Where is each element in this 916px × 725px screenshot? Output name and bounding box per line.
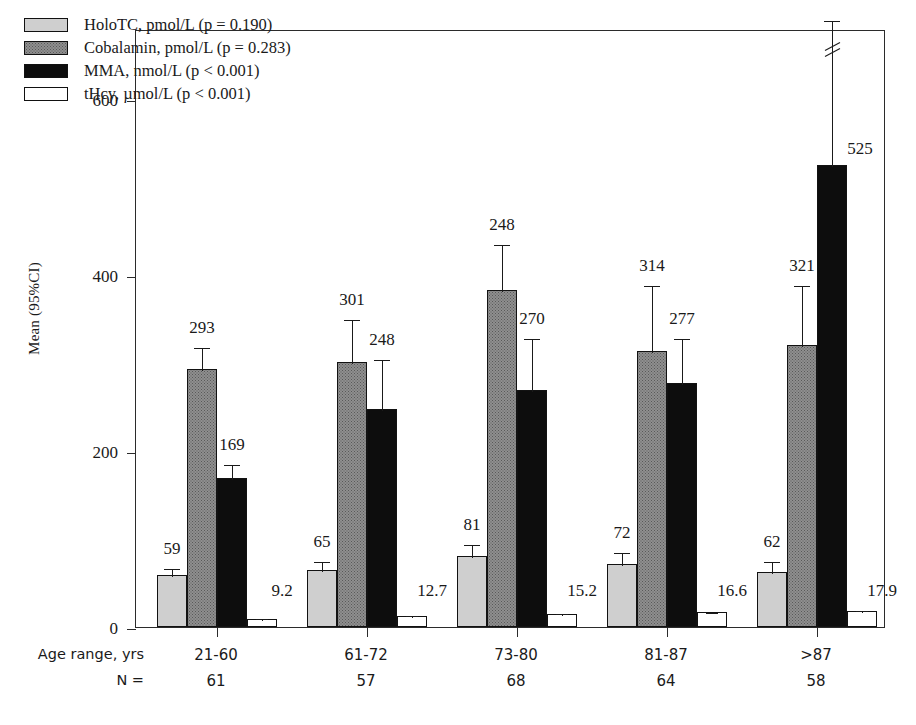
error-bar-cap-thcy-81-87 — [706, 613, 718, 614]
legend-item-cobalamin: Cobalamin, pmol/L (p = 0.283) — [24, 37, 291, 59]
error-bar-cap-holotc->87 — [764, 562, 780, 563]
plot-area: 592931699.26530124812.78124827015.272314… — [135, 30, 885, 628]
bar-holotc->87 — [757, 572, 787, 627]
value-label-mma-81-87: 277 — [669, 309, 695, 329]
value-label-holotc-21-60: 59 — [164, 539, 181, 559]
bar-mma-61-72 — [367, 409, 397, 627]
x-axis-n-value-81-87: 64 — [656, 672, 675, 690]
x-axis-tick->87 — [817, 627, 818, 637]
y-axis-tick: 200 — [127, 453, 136, 454]
error-bar-cobalamin-73-80 — [502, 245, 503, 292]
error-bar-cap-mma-21-60 — [224, 465, 240, 466]
bar-thcy-81-87 — [697, 612, 727, 627]
legend-swatch-holotc-icon — [24, 18, 68, 32]
value-label-thcy-73-80: 15.2 — [567, 581, 597, 601]
bar-mma->87 — [817, 165, 847, 627]
error-bar-cap-cobalamin-21-60 — [194, 348, 210, 349]
error-bar-cap-cobalamin-61-72 — [344, 320, 360, 321]
y-axis-tick: 400 — [127, 277, 136, 278]
error-bar-cobalamin-81-87 — [652, 286, 653, 353]
error-bar-cap-thcy-21-60 — [256, 619, 268, 620]
error-bar-cap-mma-73-80 — [524, 339, 540, 340]
bar-thcy->87 — [847, 611, 877, 627]
error-bar-holotc-21-60 — [172, 569, 173, 577]
error-bar-cap-holotc-73-80 — [464, 545, 480, 546]
x-axis-n-value->87: 58 — [806, 672, 825, 690]
x-axis-tick-61-72 — [367, 627, 368, 637]
bar-cobalamin-61-72 — [337, 362, 367, 627]
x-axis-category-61-72: 61-72 — [344, 646, 388, 664]
legend-swatch-thcy-icon — [24, 87, 68, 101]
error-bar-cobalamin-61-72 — [352, 320, 353, 364]
error-bar-holotc-73-80 — [472, 545, 473, 558]
x-axis-n-value-21-60: 61 — [206, 672, 225, 690]
error-bar-cobalamin-21-60 — [202, 348, 203, 372]
value-label-mma-61-72: 248 — [369, 330, 395, 350]
error-bar-mma-81-87 — [682, 339, 683, 386]
x-axis-tick-81-87 — [667, 627, 668, 637]
value-label-cobalamin->87: 321 — [789, 256, 815, 276]
bar-mma-21-60 — [217, 478, 247, 627]
error-bar-holotc-81-87 — [622, 553, 623, 565]
plot-inner: 592931699.26530124812.78124827015.272314… — [136, 31, 884, 627]
value-label-thcy-81-87: 16.6 — [717, 581, 747, 601]
bar-cobalamin-73-80 — [487, 290, 517, 627]
y-axis-tick-label: 400 — [93, 267, 119, 287]
axis-break-icon — [824, 43, 841, 56]
y-axis-tick-label: 200 — [93, 443, 119, 463]
error-bar-cap-thcy->87 — [856, 611, 868, 612]
error-bar-cap-holotc-61-72 — [314, 562, 330, 563]
x-axis-tick-21-60 — [217, 627, 218, 637]
x-axis-category-73-80: 73-80 — [494, 646, 538, 664]
x-axis-category-table: Age range, yrs 21-6061-7273-8081-87>87 N… — [0, 646, 916, 716]
x-axis-n-value-73-80: 68 — [506, 672, 525, 690]
error-bar-cap-mma->87 — [824, 21, 840, 22]
chart-legend: HoloTC, pmol/L (p = 0.190)Cobalamin, pmo… — [24, 14, 291, 106]
value-label-cobalamin-81-87: 314 — [639, 256, 665, 276]
value-label-cobalamin-61-72: 301 — [339, 290, 365, 310]
x-axis-category-81-87: 81-87 — [644, 646, 688, 664]
bar-holotc-73-80 — [457, 556, 487, 627]
error-bar-cap-mma-81-87 — [674, 339, 690, 340]
legend-item-thcy: tHcy, µmol/L (p < 0.001) — [24, 83, 291, 105]
error-bar-cap-mma-61-72 — [374, 360, 390, 361]
x-axis-n-row-label: N = — [0, 672, 144, 688]
value-label-cobalamin-21-60: 293 — [189, 318, 215, 338]
value-label-cobalamin-73-80: 248 — [489, 215, 515, 235]
value-label-mma->87: 525 — [847, 139, 873, 159]
value-label-mma-73-80: 270 — [519, 309, 545, 329]
error-bar-cap-holotc-81-87 — [614, 553, 630, 554]
value-label-thcy-21-60: 9.2 — [271, 581, 292, 601]
bar-mma-81-87 — [667, 383, 697, 627]
value-label-holotc-61-72: 65 — [314, 532, 331, 552]
error-bar-mma-73-80 — [532, 339, 533, 392]
bar-mma-73-80 — [517, 390, 547, 627]
legend-item-mma: MMA, nmol/L (p < 0.001) — [24, 60, 291, 82]
error-bar-mma-61-72 — [382, 360, 383, 411]
x-axis-n-value-61-72: 57 — [356, 672, 375, 690]
bar-cobalamin-81-87 — [637, 351, 667, 627]
error-bar-cap-thcy-73-80 — [556, 614, 568, 615]
error-bar-cobalamin->87 — [802, 286, 803, 347]
legend-item-label: HoloTC, pmol/L (p = 0.190) — [84, 15, 272, 35]
error-bar-cap-thcy-61-72 — [406, 616, 418, 617]
x-axis-age-row-label: Age range, yrs — [0, 646, 144, 662]
value-label-thcy->87: 17.9 — [867, 581, 897, 601]
legend-swatch-mma-icon — [24, 64, 68, 78]
value-label-holotc-81-87: 72 — [614, 523, 631, 543]
chart-figure: Mean (95%CI) 592931699.26530124812.78124… — [0, 0, 916, 725]
value-label-thcy-61-72: 12.7 — [417, 581, 447, 601]
legend-item-label: tHcy, µmol/L (p < 0.001) — [84, 84, 251, 104]
bar-cobalamin-21-60 — [187, 369, 217, 627]
error-bar-cap-holotc-21-60 — [164, 569, 180, 570]
error-bar-cap-cobalamin->87 — [794, 286, 810, 287]
y-axis-tick-label: 0 — [110, 619, 119, 639]
bar-holotc-61-72 — [307, 570, 337, 627]
x-axis-category-21-60: 21-60 — [194, 646, 238, 664]
value-label-holotc-73-80: 81 — [464, 515, 481, 535]
bar-thcy-73-80 — [547, 614, 577, 627]
value-label-mma-21-60: 169 — [219, 435, 245, 455]
error-bar-holotc-61-72 — [322, 562, 323, 572]
legend-item-holotc: HoloTC, pmol/L (p = 0.190) — [24, 14, 291, 36]
bar-holotc-81-87 — [607, 564, 637, 627]
